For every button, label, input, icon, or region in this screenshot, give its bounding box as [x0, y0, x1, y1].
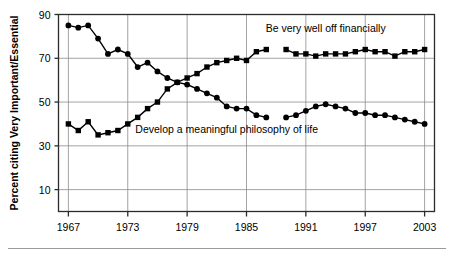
data-point [145, 60, 151, 66]
data-point [283, 114, 289, 120]
data-point [105, 130, 110, 135]
x-tick-labels: 1967197319791985199119972003 [57, 221, 437, 233]
data-point [214, 95, 220, 101]
data-point [65, 23, 71, 29]
data-point [155, 69, 161, 75]
data-point [204, 64, 209, 69]
data-point [293, 112, 299, 118]
data-point [85, 23, 91, 29]
data-point [362, 110, 368, 116]
y-tick-30: 30 [39, 140, 51, 152]
data-point [303, 51, 308, 56]
data-point [372, 112, 378, 118]
data-point [244, 58, 249, 63]
data-point [224, 58, 229, 63]
series-annotation-0: Be very well off financially [266, 22, 387, 34]
data-point [214, 60, 219, 65]
data-point [184, 82, 190, 88]
data-point [392, 114, 398, 120]
data-point [95, 132, 100, 137]
x-tick-2003: 2003 [413, 221, 437, 233]
data-point [76, 128, 81, 133]
data-point [115, 47, 121, 53]
data-point [333, 104, 339, 110]
data-point [402, 49, 407, 54]
x-tick-1997: 1997 [354, 221, 378, 233]
data-point [234, 106, 240, 112]
data-point [165, 86, 170, 91]
data-point [402, 117, 408, 123]
data-point [264, 47, 269, 52]
data-point [194, 86, 200, 92]
data-point [352, 110, 358, 116]
data-point [303, 108, 309, 114]
x-tick-marks [68, 212, 424, 217]
data-point [66, 121, 71, 126]
data-point [363, 47, 368, 52]
data-point [343, 51, 348, 56]
y-tick-70: 70 [39, 52, 51, 64]
data-point [293, 51, 298, 56]
x-tick-1979: 1979 [175, 221, 199, 233]
data-point [125, 51, 131, 57]
data-point [313, 53, 318, 58]
series-annotation-1: Develop a meaningful philosophy of life [135, 123, 318, 135]
data-point [125, 121, 130, 126]
data-point [95, 36, 101, 42]
annotation-layer: Be very well off financiallyDevelop a me… [135, 22, 386, 135]
data-point [412, 49, 417, 54]
data-point [204, 90, 210, 96]
data-point [412, 119, 418, 125]
data-point [353, 49, 358, 54]
x-tick-1991: 1991 [294, 221, 318, 233]
y-axis-label-text: Percent citing Very Important/Essential [8, 15, 20, 210]
x-tick-1985: 1985 [235, 221, 259, 233]
data-point [145, 106, 150, 111]
data-point [422, 47, 427, 52]
data-point [105, 51, 111, 57]
y-tick-10: 10 [39, 184, 51, 196]
data-point [115, 128, 120, 133]
data-point [85, 119, 90, 124]
data-point [253, 112, 259, 118]
data-point [135, 64, 141, 70]
data-point [234, 56, 239, 61]
data-point [155, 99, 160, 104]
data-point [224, 104, 230, 110]
data-point [283, 47, 288, 52]
data-point [333, 51, 338, 56]
data-point [244, 106, 250, 112]
y-tick-50: 50 [39, 96, 51, 108]
data-point [323, 51, 328, 56]
data-point [194, 71, 199, 76]
data-point [313, 104, 319, 110]
x-tick-1967: 1967 [57, 221, 81, 233]
data-point [135, 115, 140, 120]
data-point [263, 114, 269, 120]
data-point [164, 75, 170, 81]
data-point [184, 75, 189, 80]
data-point [174, 79, 180, 85]
chart-figure: Percent citing Very Important/Essential … [0, 0, 454, 257]
vertical-gridlines [68, 15, 424, 212]
x-tick-1973: 1973 [116, 221, 140, 233]
y-tick-90: 90 [39, 9, 51, 21]
y-tick-labels: 1030507090 [39, 9, 59, 196]
data-point [422, 121, 428, 127]
data-point [254, 49, 259, 54]
data-point [343, 106, 349, 112]
data-point [75, 25, 81, 31]
data-point [372, 49, 377, 54]
data-point [382, 49, 387, 54]
data-point [392, 53, 397, 58]
y-axis-label: Percent citing Very Important/Essential [8, 15, 20, 210]
data-point [323, 101, 329, 107]
data-point [382, 112, 388, 118]
